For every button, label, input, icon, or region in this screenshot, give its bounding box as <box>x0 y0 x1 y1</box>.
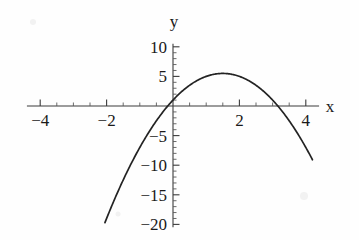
x-tick-label: 4 <box>302 111 311 130</box>
y-tick-label: −20 <box>140 215 167 234</box>
y-tick-label: 10 <box>150 38 167 57</box>
parabola-plot: −4−224 105−5−10−15−20 x y <box>0 0 359 240</box>
y-tick-label: 5 <box>159 67 168 86</box>
x-tick-label: −2 <box>98 111 116 130</box>
y-tick-label: −15 <box>140 186 167 205</box>
chart-figure: −4−224 105−5−10−15−20 x y <box>0 0 359 240</box>
y-tick-label: −5 <box>149 127 167 146</box>
x-axis-title: x <box>326 97 335 116</box>
y-tick-label: −10 <box>140 156 167 175</box>
y-axis-title: y <box>170 12 179 31</box>
x-tick-label: −4 <box>31 111 50 130</box>
x-tick-label: 2 <box>235 111 244 130</box>
